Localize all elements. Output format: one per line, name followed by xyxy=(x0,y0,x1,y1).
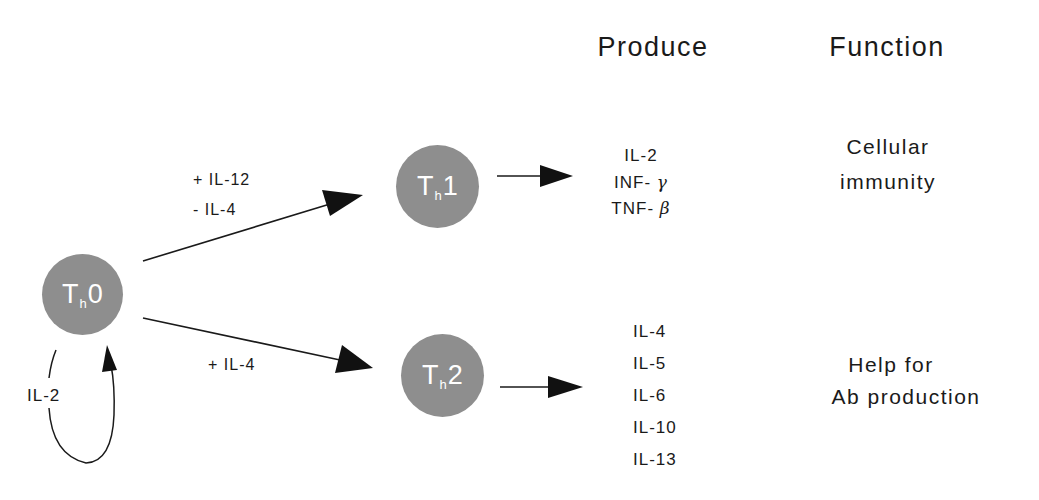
th1-function-line1: Cellular xyxy=(846,136,929,157)
th2-sub: h xyxy=(440,377,447,392)
autocrine-il2-label: IL-2 xyxy=(27,387,60,404)
th1-main: T xyxy=(417,171,434,202)
th0-main: T xyxy=(62,279,79,310)
th1-product-tnf-beta: TNF- β xyxy=(611,200,670,217)
th2-main: T xyxy=(422,360,439,391)
th0-suffix: 0 xyxy=(88,279,103,310)
th2-product-il10: IL-10 xyxy=(633,419,677,436)
th2-product-il6: IL-6 xyxy=(633,387,666,404)
condition-th2-plus-il4: + IL-4 xyxy=(208,357,255,373)
th1-suffix: 1 xyxy=(443,171,458,202)
arrow-th2-to-products xyxy=(500,376,583,398)
arrow-th1-to-products xyxy=(497,165,573,187)
th1-product-il2: IL-2 xyxy=(624,147,657,164)
th2-product-il5: IL-5 xyxy=(633,355,666,372)
th1-product-ifn-gamma: INF- γ xyxy=(614,174,668,191)
th1-function-line2: immunity xyxy=(840,171,936,192)
arrow-th0-to-th2 xyxy=(143,318,373,373)
arrow-th0-to-th1 xyxy=(143,190,363,261)
th2-product-il4: IL-4 xyxy=(633,323,666,340)
th0-cell: Th0 xyxy=(42,254,123,335)
function-header: Function xyxy=(829,34,945,61)
th2-product-il13: IL-13 xyxy=(633,451,677,468)
th2-function-line2: Ab production xyxy=(831,386,980,407)
th2-function-line1: Help for xyxy=(848,354,934,375)
th0-sub: h xyxy=(80,296,87,311)
th1-cell: Th1 xyxy=(396,145,479,228)
th1-sub: h xyxy=(435,188,442,203)
condition-th1-minus-il4: - IL-4 xyxy=(193,202,236,218)
produce-header: Produce xyxy=(597,34,708,61)
th2-suffix: 2 xyxy=(448,360,463,391)
condition-th1-plus-il12: + IL-12 xyxy=(193,172,250,188)
th2-cell: Th2 xyxy=(401,334,484,417)
diagram-connectors xyxy=(0,0,1039,500)
